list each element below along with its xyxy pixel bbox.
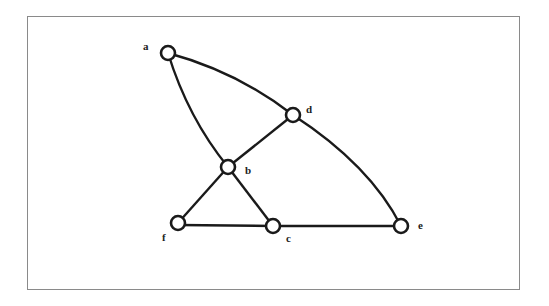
node-d[interactable] [286,108,300,122]
edges [168,53,401,226]
label-b: b [245,164,251,176]
node-e[interactable] [394,219,408,233]
label-c: c [286,232,291,244]
node-f[interactable] [171,216,185,230]
node-a[interactable] [161,46,175,60]
edge-d-e [293,115,401,226]
edge-f-c [178,225,273,226]
nodes [161,46,408,233]
edge-d-b [228,115,293,167]
node-b[interactable] [221,160,235,174]
edge-a-d [168,53,293,115]
node-c[interactable] [266,219,280,233]
label-d: d [306,103,312,115]
label-e: e [418,219,423,231]
label-a: a [143,40,149,52]
label-f: f [162,231,166,243]
graph-canvas: a d b f c e [0,0,549,306]
edge-b-f [178,167,228,223]
